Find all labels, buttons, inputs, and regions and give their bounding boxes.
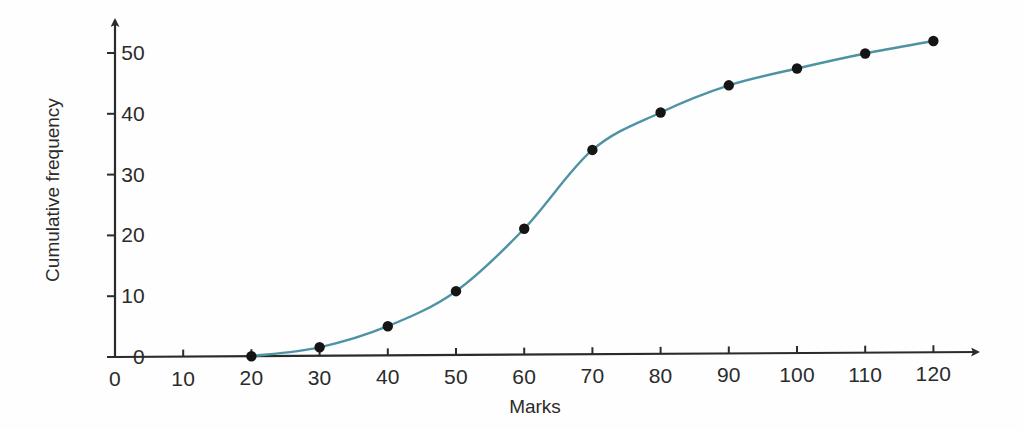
data-point [724, 80, 734, 90]
data-point [860, 48, 870, 58]
data-point [792, 63, 802, 73]
x-tick-label: 20 [240, 366, 264, 390]
data-point-markers [246, 36, 938, 362]
y-tick-label: 0 [99, 345, 145, 369]
data-point [246, 351, 256, 361]
x-tick-label: 90 [717, 363, 741, 387]
cumulative-frequency-curve [251, 41, 933, 356]
data-point [383, 321, 393, 331]
y-tick-label: 20 [99, 223, 145, 247]
data-point [928, 36, 938, 46]
x-tick-label: 30 [308, 366, 332, 390]
x-tick-label: 70 [581, 364, 605, 388]
x-tick-label: 120 [916, 362, 952, 386]
x-tick-label: 40 [376, 365, 400, 389]
y-tick-label: 40 [99, 102, 145, 126]
data-point [451, 286, 461, 296]
x-tick-label: 50 [444, 365, 468, 389]
y-tick-label: 30 [99, 163, 145, 187]
y-axis-ticks [107, 53, 115, 357]
data-point [587, 145, 597, 155]
x-tick-label: 10 [171, 367, 195, 391]
data-point [314, 342, 324, 352]
y-axis-title: Cumulative frequency [42, 98, 64, 282]
x-tick-label: 60 [512, 365, 536, 389]
cumulative-frequency-chart: 010203040506070809010011012001020304050 … [0, 0, 1023, 429]
data-point [519, 224, 529, 234]
axes [107, 20, 978, 357]
y-tick-label: 50 [99, 41, 145, 65]
x-tick-label: 80 [649, 364, 673, 388]
x-tick-label: 100 [779, 363, 815, 387]
y-tick-label: 10 [99, 284, 145, 308]
x-tick-label: 110 [848, 363, 882, 387]
x-tick-label: 0 [109, 367, 121, 391]
data-point [655, 107, 665, 117]
x-axis-title: Marks [509, 396, 561, 418]
x-axis-line [115, 352, 978, 357]
